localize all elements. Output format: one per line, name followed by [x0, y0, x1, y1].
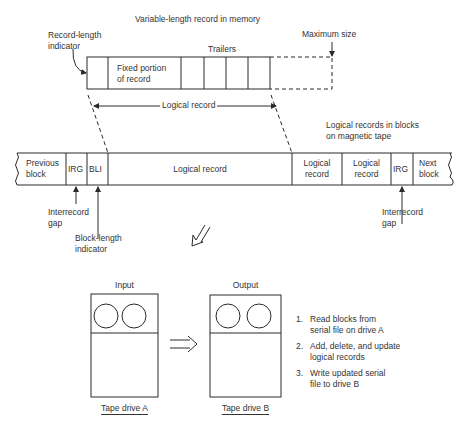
label-line: indicator	[48, 41, 101, 52]
tape-drive-b-label: Tape drive B	[207, 403, 284, 414]
label-line: Logical records in blocks	[326, 120, 419, 131]
trailers-label: Trailers	[208, 44, 236, 55]
label-line: gap	[48, 218, 89, 229]
record-length-arrow	[73, 49, 86, 73]
tape-cell-irg-right: IRG	[393, 164, 408, 175]
process-steps: 1. Read blocks from serial file on drive…	[296, 314, 440, 395]
label-line: indicator	[75, 244, 122, 255]
label-line: Interrecord	[48, 207, 89, 218]
label-line: record	[292, 169, 342, 180]
step-text: Add, delete, and update	[310, 341, 440, 352]
label-line: block	[26, 169, 59, 180]
label-line: Block-length	[75, 233, 122, 244]
tape-cell-bli: BLI	[89, 164, 102, 175]
interrecord-gap-left-label: Interrecord gap	[48, 207, 89, 228]
block-length-indicator-label: Block-length indicator	[75, 233, 122, 254]
interrecord-gap-right-label: Interrecord gap	[382, 207, 423, 228]
step-text: serial file on drive A	[310, 325, 440, 336]
label-line: Logical	[292, 158, 342, 169]
down-left-arrow	[192, 225, 210, 246]
step-text: file to drive B	[310, 379, 440, 390]
label-line: of record	[117, 74, 166, 85]
diagram-title: Variable-length record in memory	[135, 14, 260, 25]
tape-cell-previous-block: Previous block	[26, 158, 59, 179]
label-line: Record-length	[48, 30, 101, 41]
step-text: logical records	[310, 352, 440, 363]
tape-cell-logical-record-main: Logical record	[108, 164, 292, 175]
label-line: on magnetic tape	[326, 131, 419, 142]
tape-cell-logical-record-2: Logical record	[292, 158, 342, 179]
step-text: Read blocks from	[310, 314, 440, 325]
input-heading: Input	[91, 280, 158, 291]
step-item: 2. Add, delete, and update logical recor…	[296, 341, 440, 362]
tape-drive-a-box	[91, 294, 158, 397]
tape-caption: Logical records in blocks on magnetic ta…	[326, 120, 419, 141]
label-line: record	[342, 169, 391, 180]
maximum-size-label: Maximum size	[302, 29, 356, 40]
label-line: Logical	[342, 158, 391, 169]
output-heading: Output	[210, 280, 281, 291]
step-number: 1.	[296, 314, 303, 325]
step-text: Write updated serial	[310, 368, 440, 379]
label-line: block	[419, 169, 439, 180]
logical-record-span-label: Logical record	[160, 100, 217, 111]
step-number: 3.	[296, 368, 303, 379]
label-line: Next	[419, 158, 439, 169]
record-length-indicator-label: Record-length indicator	[48, 30, 101, 51]
tape-cell-logical-record-3: Logical record	[342, 158, 391, 179]
tape-drive-a-label: Tape drive A	[86, 403, 163, 414]
tape-drive-b-box	[210, 295, 281, 397]
transfer-arrow	[170, 336, 197, 352]
label-line: gap	[382, 218, 423, 229]
step-item: 1. Read blocks from serial file on drive…	[296, 314, 440, 335]
step-item: 3. Write updated serial file to drive B	[296, 368, 440, 389]
fixed-portion-label: Fixed portion of record	[117, 63, 166, 84]
tape-cell-irg-left: IRG	[68, 164, 83, 175]
step-number: 2.	[296, 341, 303, 352]
label-line: Interrecord	[382, 207, 423, 218]
label-line: Fixed portion	[117, 63, 166, 74]
label-line: Previous	[26, 158, 59, 169]
tape-cell-next-block: Next block	[419, 158, 439, 179]
